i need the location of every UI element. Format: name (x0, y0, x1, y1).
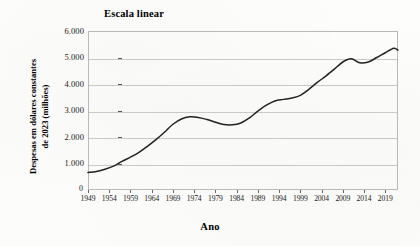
x-tick-label: 2019 (378, 194, 393, 203)
x-tick-label: 1964 (144, 194, 159, 203)
x-tick-mark (364, 190, 365, 193)
x-tick-mark (343, 190, 344, 193)
x-axis-tick-labels: 1949195419591964196919741979198419891994… (0, 0, 420, 246)
x-tick-mark (258, 190, 259, 193)
x-tick-label: 1954 (102, 194, 117, 203)
x-tick-label: 1989 (250, 194, 265, 203)
x-tick-mark (173, 190, 174, 193)
x-tick-mark (385, 190, 386, 193)
x-tick-mark (130, 190, 131, 193)
x-tick-label: 1974 (187, 194, 202, 203)
x-tick-label: 1949 (81, 194, 96, 203)
x-tick-label: 2014 (357, 194, 372, 203)
x-tick-label: 1994 (272, 194, 287, 203)
x-tick-mark (152, 190, 153, 193)
x-axis-label: Ano (0, 221, 420, 232)
x-tick-mark (194, 190, 195, 193)
x-tick-mark (322, 190, 323, 193)
x-tick-label: 1984 (229, 194, 244, 203)
x-tick-label: 1979 (208, 194, 223, 203)
x-tick-label: 1959 (123, 194, 138, 203)
x-tick-label: 2009 (335, 194, 350, 203)
x-tick-mark (237, 190, 238, 193)
x-tick-mark (300, 190, 301, 193)
x-tick-mark (279, 190, 280, 193)
x-tick-mark (109, 190, 110, 193)
x-tick-mark (88, 190, 89, 193)
origin-zero-label: 0 (79, 184, 83, 193)
x-tick-label: 2004 (314, 194, 329, 203)
x-tick-label: 1969 (166, 194, 181, 203)
x-tick-label: 1999 (293, 194, 308, 203)
x-tick-mark (215, 190, 216, 193)
